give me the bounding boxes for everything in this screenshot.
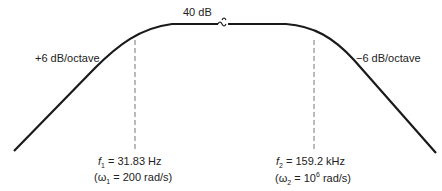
right-slope-label: −6 dB/octave [356, 52, 421, 64]
omega1-label: (ω1 = 200 rad/s) [94, 171, 172, 185]
bode-diagram: 40 dB +6 dB/octave −6 dB/octave f1 = 31.… [0, 0, 442, 191]
omega2-label: (ω2 = 106 rad/s) [275, 171, 351, 186]
f2-value: = 159.2 kHz [283, 155, 345, 167]
left-slope-label: +6 dB/octave [35, 52, 100, 64]
response-curve-right [228, 24, 436, 153]
plateau-label: 40 dB [183, 6, 212, 18]
f1-value: = 31.83 Hz [105, 155, 162, 167]
omega1-open: (ω [94, 171, 106, 183]
break-symbol-icon [218, 18, 226, 26]
response-curve-canvas [0, 0, 442, 191]
f2-label: f2 = 159.2 kHz [276, 155, 345, 169]
f1-label: f1 = 31.83 Hz [98, 155, 162, 169]
response-curve-left [14, 24, 218, 151]
omega2-unit: rad/s) [320, 172, 351, 184]
omega2-value: = 10 [291, 172, 316, 184]
omega2-open: (ω [275, 172, 287, 184]
omega1-value: = 200 rad/s) [110, 171, 172, 183]
